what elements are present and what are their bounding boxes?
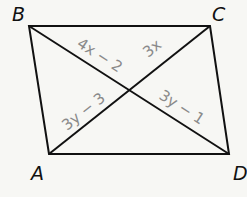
vertex-label-b: B — [12, 3, 25, 25]
vertex-label-c: C — [212, 3, 226, 25]
parallelogram-diagram: B C A D 4x − 2 3x 3y − 3 3y − 1 — [0, 0, 247, 197]
segment-label-bm: 4x − 2 — [74, 34, 126, 76]
vertex-label-a: A — [29, 162, 44, 184]
segment-label-dm: 3y − 1 — [156, 86, 208, 128]
vertex-label-d: D — [233, 162, 247, 184]
diagonal-ac — [49, 26, 210, 154]
diagram-canvas: B C A D 4x − 2 3x 3y − 3 3y − 1 — [0, 0, 247, 197]
segment-label-cm: 3x — [139, 35, 165, 61]
